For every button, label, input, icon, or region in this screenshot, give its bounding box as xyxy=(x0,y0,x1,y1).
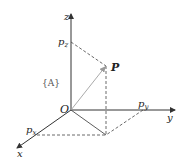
pz-to-p-dashed xyxy=(71,42,106,66)
origin-to-floor-line xyxy=(71,110,106,135)
py-label: py xyxy=(138,98,149,111)
py-to-floor-dashed xyxy=(106,110,143,135)
x-axis-label: x xyxy=(17,148,23,159)
position-vector xyxy=(71,67,105,110)
frame-label: {A} xyxy=(42,78,60,88)
coordinate-frame-diagram: z y x O P {A} pz py px xyxy=(0,0,187,164)
px-label: px xyxy=(26,124,36,137)
z-axis-label: z xyxy=(63,11,70,22)
origin-label: O xyxy=(60,103,69,116)
point-p-label: P xyxy=(110,61,120,74)
pz-label: pz xyxy=(58,36,68,49)
y-axis-label: y xyxy=(166,112,173,123)
